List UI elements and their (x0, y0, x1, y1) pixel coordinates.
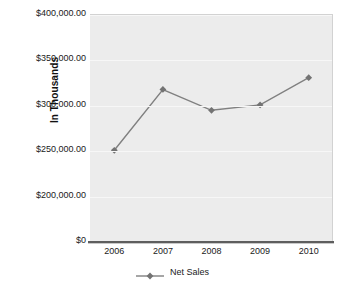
series-plot (90, 15, 333, 241)
y-tick-label: $0 (14, 235, 86, 245)
x-tick-label: 2006 (92, 246, 136, 256)
legend-label-net-sales: Net Sales (170, 267, 209, 277)
data-point-marker (208, 107, 215, 114)
y-tick-label: $300,000.00 (14, 99, 86, 109)
x-tick-label: 2007 (141, 246, 185, 256)
plot-area (90, 14, 333, 241)
gridline (90, 60, 332, 61)
gridline (90, 106, 332, 107)
series-line-net-sales (114, 78, 308, 151)
x-tick-label: 2009 (238, 246, 282, 256)
gridline (90, 15, 332, 16)
x-axis-baseline-shadow (88, 243, 334, 244)
y-tick-label: $400,000.00 (14, 8, 86, 18)
data-point-marker (305, 74, 312, 81)
gridline (90, 151, 332, 152)
x-tick-label: 2008 (190, 246, 234, 256)
legend-marker-icon (135, 267, 165, 277)
y-tick-label: $350,000.00 (14, 53, 86, 63)
y-tick-label: $250,000.00 (14, 144, 86, 154)
y-axis-tick-labels: $400,000.00$350,000.00$300,000.00$250,00… (12, 0, 86, 284)
gridline (90, 197, 332, 198)
y-tick-label: $200,000.00 (14, 190, 86, 200)
net-sales-line-chart: In Thousands $400,000.00$350,000.00$300,… (0, 0, 344, 284)
chart-legend: Net Sales (0, 264, 344, 280)
x-axis-tick-labels: 20062007200820092010 (90, 246, 333, 260)
x-tick-label: 2010 (287, 246, 331, 256)
